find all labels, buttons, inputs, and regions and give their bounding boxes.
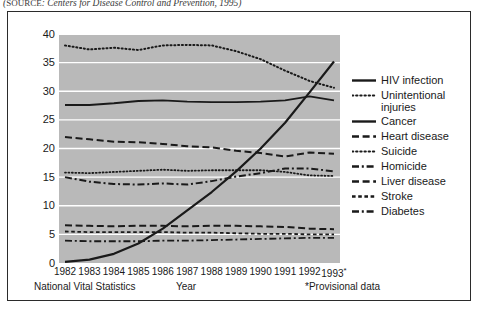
y-tick-label: 0 <box>19 258 55 269</box>
note-provisional-data: *Provisional data <box>305 281 380 292</box>
series-line-suicide <box>65 170 334 176</box>
legend-item-homicide[interactable]: Homicide <box>352 160 470 173</box>
x-tick-label: 1988 <box>201 266 223 277</box>
y-tick-label: 25 <box>19 114 55 125</box>
source-credit: (SOURCE: Centers for Disease Control and… <box>3 0 242 8</box>
legend-item-hiv-infection[interactable]: HIV infection <box>352 74 470 87</box>
legend-swatch-icon <box>352 74 376 87</box>
series-line-cancer <box>65 96 334 105</box>
legend-swatch-icon <box>352 115 376 128</box>
figure-chart-leading-causes-of-death: (SOURCE: Centers for Disease Control and… <box>0 0 479 314</box>
legend-item-heart-disease[interactable]: Heart disease <box>352 130 470 143</box>
x-tick-label: 1992 <box>298 266 320 277</box>
legend-swatch-icon <box>352 175 376 188</box>
legend-swatch-icon <box>352 190 376 203</box>
series-line-liver-disease <box>65 225 334 229</box>
legend-item-liver-disease[interactable]: Liver disease <box>352 175 470 188</box>
legend-item-label: Diabetes <box>381 205 424 217</box>
y-tick-label: 30 <box>19 86 55 97</box>
y-tick-label: 35 <box>19 57 55 68</box>
x-tick-label: 1982 <box>54 266 76 277</box>
legend-swatch-icon <box>352 160 376 173</box>
x-tick-label: 1989 <box>225 266 247 277</box>
series-line-unintentional-injuries <box>65 45 334 88</box>
legend-item-label: HIV infection <box>381 74 443 86</box>
legend-item-label: Homicide <box>381 160 427 172</box>
legend-swatch-icon <box>352 145 376 158</box>
x-axis-title: Year <box>176 281 196 292</box>
plot-area <box>59 34 340 263</box>
legend-item-stroke[interactable]: Stroke <box>352 190 470 203</box>
x-tick-label: 1993* <box>321 266 346 279</box>
x-tick-label: 1986 <box>152 266 174 277</box>
x-tick-label: 1987 <box>176 266 198 277</box>
x-tick-label: 1984 <box>103 266 125 277</box>
y-tick-label: 20 <box>19 143 55 154</box>
legend-item-label: Heart disease <box>381 130 449 142</box>
y-tick-label: 5 <box>19 229 55 240</box>
legend-item-label: Unintentional injuries <box>381 89 470 113</box>
legend-item-label: Suicide <box>381 145 417 157</box>
x-axis-ticks: 1982198319841985198619871988198919901991… <box>59 266 340 280</box>
x-tick-label: 1991 <box>274 266 296 277</box>
x-tick-label: 1983 <box>78 266 100 277</box>
legend-swatch-icon <box>352 130 376 143</box>
series-line-heart-disease <box>65 137 334 156</box>
y-axis-ticks: 0510152025303540 <box>14 34 55 263</box>
note-national-vital-statistics: National Vital Statistics <box>34 281 136 292</box>
legend-item-label: Cancer <box>381 115 416 127</box>
legend-item-diabetes[interactable]: Diabetes <box>352 205 470 218</box>
legend-item-label: Liver disease <box>381 175 446 187</box>
x-tick-label: 1985 <box>127 266 149 277</box>
series-line-diabetes <box>65 238 334 241</box>
y-tick-label: 15 <box>19 172 55 183</box>
legend-swatch-icon <box>352 89 376 102</box>
legend-item-label: Stroke <box>381 190 413 202</box>
legend-item-cancer[interactable]: Cancer <box>352 115 470 128</box>
legend-item-suicide[interactable]: Suicide <box>352 145 470 158</box>
y-tick-label: 40 <box>19 29 55 40</box>
chart-legend: HIV infectionUnintentional injuriesCance… <box>352 74 470 220</box>
legend-item-unintentional-injuries[interactable]: Unintentional injuries <box>352 89 470 113</box>
plot-svg <box>59 34 340 263</box>
legend-swatch-icon <box>352 205 376 218</box>
y-tick-label: 10 <box>19 200 55 211</box>
x-tick-label: 1990 <box>250 266 272 277</box>
